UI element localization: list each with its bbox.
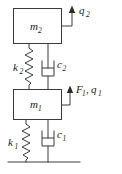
arrow-label-separator: , [86,83,89,95]
mass-label-m2: m [30,20,38,32]
damper-label-c1: c [57,128,62,140]
arrow-label-q1: q [91,83,97,95]
spring-k1 [22,120,30,162]
mass-label-m1-subscript: 1 [38,104,42,113]
arrow-label-q1-subscript: 1 [98,89,102,98]
damper-label-c2-subscript: 2 [63,64,67,73]
spring-label-k2-subscript: 2 [20,67,24,76]
damper-label-c1-subscript: 1 [63,134,67,143]
spring-label-k2: k [13,61,19,73]
mass-label-m1: m [30,98,38,110]
arrowhead-f1-q1 [67,86,73,94]
arrowhead-q2 [69,6,75,14]
damper-label-c2: c [57,58,62,70]
spring-label-k1: k [8,136,14,148]
mass-spring-damper-diagram: m 2 q 2 k 2 c 2 m 1 F 1 , q 1 k 1 [0,0,122,174]
arrow-leader-q2 [62,12,73,26]
spring-label-k1-subscript: 1 [15,142,19,151]
spring-k2 [25,44,33,89]
arrow-label-q2-subscript: 2 [86,10,90,19]
mass-label-m2-subscript: 2 [38,26,42,35]
arrow-leader-f1-q1 [62,92,71,105]
arrow-label-q2: q [79,4,85,16]
diagram-canvas: m 2 q 2 k 2 c 2 m 1 F 1 , q 1 k 1 [0,0,122,174]
